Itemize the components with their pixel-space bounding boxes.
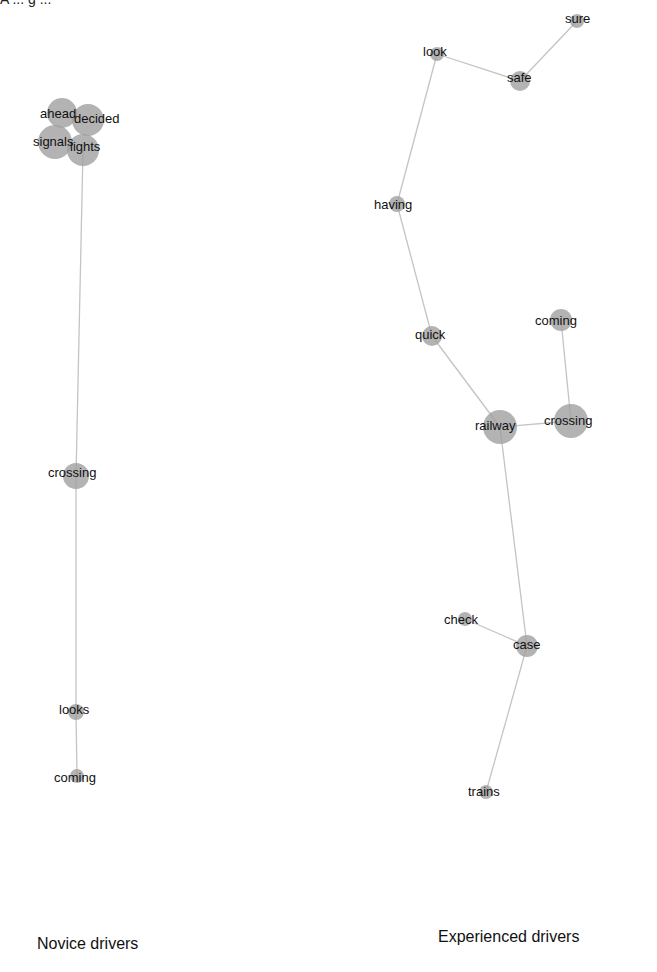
node-label-decided: decided (74, 111, 120, 126)
novice-drivers-network: aheaddecidedsignalslightscrossinglooksco… (33, 98, 120, 785)
node-label-coming: coming (54, 770, 96, 785)
node-label-check: check (444, 612, 478, 627)
edge-looks-coming (76, 712, 77, 776)
node-label-trains: trains (468, 784, 500, 799)
experienced-edges (397, 21, 577, 792)
edge-lights-crossing (76, 150, 83, 476)
node-label-railway: railway (475, 418, 516, 433)
node-label-case: case (513, 637, 540, 652)
word-network-diagram: aheaddecidedsignalslightscrossinglooksco… (0, 0, 657, 972)
edge-quick-railway (432, 336, 500, 427)
edge-case-trains (486, 646, 527, 792)
node-label-quick: quick (415, 327, 446, 342)
node-label-crossing: crossing (544, 413, 592, 428)
node-label-lights: lights (70, 139, 101, 154)
edge-railway-case (500, 427, 527, 646)
edge-look-having (397, 54, 437, 204)
edge-having-quick (397, 204, 432, 336)
node-label-sure: sure (565, 11, 590, 26)
node-label-look: look (423, 44, 447, 59)
node-label-coming: coming (535, 313, 577, 328)
novice-edges (76, 150, 83, 776)
node-label-safe: safe (507, 70, 532, 85)
node-label-looks: looks (59, 702, 90, 717)
node-label-signals: signals (33, 134, 74, 149)
node-label-ahead: ahead (40, 106, 76, 121)
experienced-drivers-caption: Experienced drivers (438, 928, 579, 946)
node-label-crossing: crossing (48, 465, 96, 480)
experienced-drivers-network: surelooksafehavingquickcomingrailwaycros… (374, 11, 592, 799)
novice-drivers-caption: Novice drivers (37, 935, 138, 953)
node-label-having: having (374, 197, 412, 212)
